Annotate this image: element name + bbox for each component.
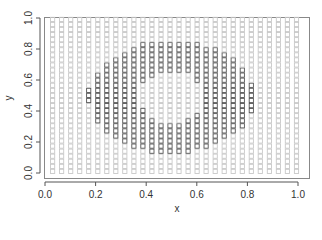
grid-point — [258, 38, 262, 42]
grid-point — [294, 27, 298, 31]
ring-point — [123, 134, 127, 138]
x-tick-label: 0.0 — [38, 189, 52, 200]
grid-point — [168, 114, 172, 118]
grid-point — [87, 104, 91, 108]
grid-point — [285, 144, 289, 148]
grid-point — [105, 53, 109, 57]
ring-point — [177, 129, 181, 133]
grid-point — [78, 98, 82, 102]
grid-point — [267, 129, 271, 133]
ring-point — [168, 43, 172, 47]
ring-point — [132, 88, 136, 92]
ring-point — [114, 98, 118, 102]
ring-point — [132, 129, 136, 133]
ring-point — [168, 144, 172, 148]
ring-point — [249, 109, 253, 113]
ring-point — [159, 53, 163, 57]
ring-point — [231, 114, 235, 118]
grid-point — [267, 33, 271, 37]
ring-point — [132, 119, 136, 123]
grid-point — [150, 169, 154, 173]
ring-point — [150, 58, 154, 62]
grid-point — [186, 164, 190, 168]
grid-point — [114, 43, 118, 47]
ring-point — [249, 98, 253, 102]
grid-point — [267, 154, 271, 158]
grid-point — [276, 149, 280, 153]
grid-point — [240, 164, 244, 168]
grid-point — [231, 33, 235, 37]
grid-point — [294, 88, 298, 92]
grid-point — [105, 134, 109, 138]
grid-point — [267, 104, 271, 108]
grid-point — [285, 22, 289, 26]
grid-point — [276, 38, 280, 42]
grid-point — [168, 169, 172, 173]
grid-point — [141, 22, 145, 26]
grid-point — [96, 159, 100, 163]
grid-point — [78, 104, 82, 108]
grid-point — [150, 159, 154, 163]
ring-point — [195, 78, 199, 82]
grid-point — [60, 119, 64, 123]
grid-point — [177, 98, 181, 102]
grid-point — [231, 159, 235, 163]
grid-point — [267, 63, 271, 67]
ring-point — [240, 78, 244, 82]
grid-point — [240, 129, 244, 133]
grid-point — [51, 159, 55, 163]
grid-point — [195, 38, 199, 42]
ring-point — [105, 129, 109, 133]
grid-point — [231, 144, 235, 148]
ring-point — [213, 58, 217, 62]
ring-point — [204, 114, 208, 118]
ring-point — [213, 83, 217, 87]
grid-point — [60, 114, 64, 118]
ring-point — [114, 119, 118, 123]
ring-point — [195, 114, 199, 118]
ring-point — [231, 119, 235, 123]
grid-point — [78, 33, 82, 37]
grid-point — [60, 124, 64, 128]
ring-point — [222, 68, 226, 72]
grid-point — [96, 58, 100, 62]
grid-point — [249, 139, 253, 143]
grid-point — [249, 73, 253, 77]
grid-point — [69, 129, 73, 133]
ring-point — [150, 134, 154, 138]
ring-point — [231, 58, 235, 62]
grid-point — [150, 22, 154, 26]
grid-point — [276, 98, 280, 102]
grid-point — [276, 129, 280, 133]
grid-point — [186, 78, 190, 82]
ring-point — [168, 53, 172, 57]
grid-point — [204, 149, 208, 153]
grid-point — [249, 58, 253, 62]
grid-point — [87, 164, 91, 168]
grid-point — [87, 78, 91, 82]
grid-point — [285, 43, 289, 47]
grid-point — [114, 38, 118, 42]
grid-point — [51, 114, 55, 118]
grid-point — [249, 124, 253, 128]
grid-point — [258, 68, 262, 72]
grid-point — [285, 139, 289, 143]
grid-point — [258, 98, 262, 102]
grid-point — [159, 119, 163, 123]
grid-point — [51, 68, 55, 72]
grid-point — [78, 22, 82, 26]
grid-point — [141, 164, 145, 168]
grid-point — [78, 63, 82, 67]
grid-point — [267, 88, 271, 92]
grid-point — [195, 27, 199, 31]
ring-point — [159, 139, 163, 143]
ring-point — [240, 109, 244, 113]
grid-point — [141, 27, 145, 31]
grid-point — [258, 22, 262, 26]
grid-point — [249, 134, 253, 138]
grid-point — [276, 88, 280, 92]
ring-point — [123, 98, 127, 102]
grid-point — [258, 159, 262, 163]
grid-point — [69, 88, 73, 92]
grid-point — [87, 27, 91, 31]
